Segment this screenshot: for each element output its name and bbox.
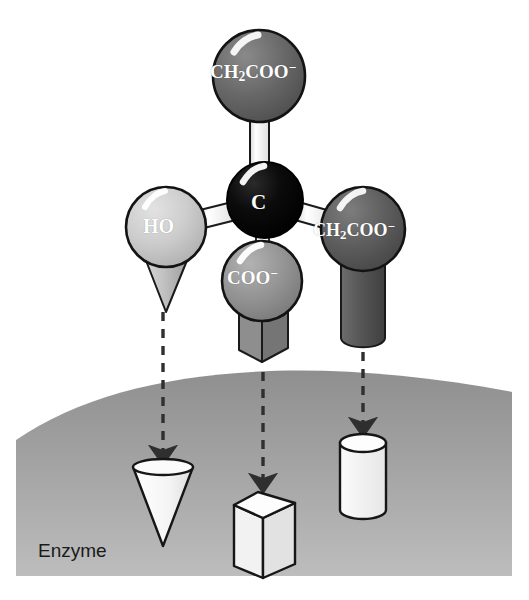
cone-site-top-ellipse xyxy=(133,459,193,475)
diagram-svg xyxy=(0,0,529,600)
binding-site-box[interactable] xyxy=(234,492,295,578)
atom-sphere-bottom[interactable] xyxy=(222,241,302,321)
atom-sphere-left[interactable] xyxy=(126,187,206,267)
atom-sphere-top[interactable] xyxy=(213,30,305,122)
binding-site-cylinder[interactable] xyxy=(340,434,386,519)
enzyme-label: Enzyme xyxy=(38,540,107,562)
atom-sphere-center[interactable] xyxy=(227,162,303,238)
figure-canvas: CH2COO− CH2COO− HO COO− C Enzyme xyxy=(0,0,529,600)
atom-sphere-right[interactable] xyxy=(321,187,405,271)
cylinder-site-top-ellipse xyxy=(340,434,386,452)
